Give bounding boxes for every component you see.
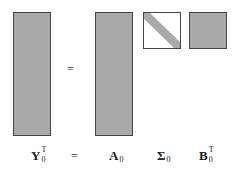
label-b-symbol: B [199,148,208,163]
matrix-y-transpose [13,12,51,136]
diagonal-band-icon [144,13,180,48]
label-a-subscript: 0 [119,155,123,164]
equals-sign-label: = [71,149,78,164]
matrix-sigma-diagonal [143,12,181,49]
matrix-a [95,12,133,136]
label-sigma: Σ0 [157,148,172,164]
label-b-transpose: BT0 [199,148,214,164]
label-y-superscript: T [41,145,46,154]
label-sigma-subscript: 0 [167,155,171,164]
equals-sign-diagram: = [67,62,74,77]
label-sigma-symbol: Σ [157,148,166,163]
label-a: A0 [109,148,124,164]
matrix-b-transpose [189,12,227,49]
label-a-symbol: A [109,148,118,163]
label-y-symbol: Y [31,148,40,163]
label-b-subscript: 0 [209,155,213,164]
label-b-superscript: T [209,145,214,154]
label-y-subscript: 0 [41,155,45,164]
label-y-transpose: YT0 [31,148,46,164]
